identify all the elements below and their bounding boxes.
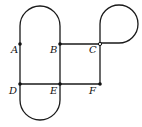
vertex-F [98,82,102,86]
edge-A-B-arc [20,6,60,44]
label-C: C [89,44,97,55]
label-F: F [88,85,97,96]
vertex-A [18,42,22,46]
label-D: D [8,85,17,96]
edge-C-loop [100,5,138,44]
vertex-C [98,42,101,45]
vertex-B [58,42,62,46]
label-E: E [49,85,58,96]
graph-diagram: A B C D E F [0,0,142,127]
label-A: A [10,44,18,55]
vertex-D [18,82,22,86]
vertex-E [58,82,62,86]
label-B: B [49,44,57,55]
